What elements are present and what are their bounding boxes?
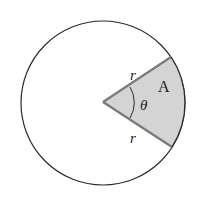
sector-diagram: r r θ A <box>0 0 206 206</box>
area-label: A <box>158 78 170 95</box>
radius-label-bottom: r <box>130 130 136 146</box>
radius-label-top: r <box>130 67 136 83</box>
diagram-canvas: r r θ A <box>0 0 206 206</box>
angle-label-theta: θ <box>140 97 148 113</box>
